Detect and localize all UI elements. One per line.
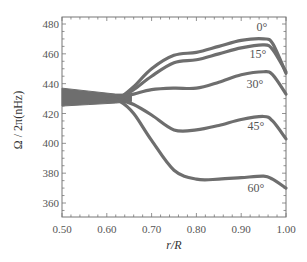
curve-label: 0° [257,20,268,34]
curve-labels: 0°15°30°45°60° [247,20,268,195]
curves [62,39,286,188]
y-tick-label: 360 [43,197,60,209]
x-tick-label: 0.90 [232,223,252,235]
curve-60deg [107,99,286,188]
y-tick-label: 440 [43,78,60,90]
y-axis-title: Ω / 2π(nHz) [11,91,25,149]
y-tick-label: 400 [43,137,60,149]
y-tick-label: 420 [43,108,60,120]
x-tick-label: 0.60 [97,223,117,235]
curve-label: 30° [247,77,264,91]
x-tick-label: 0.50 [52,223,72,235]
y-tick-label: 460 [43,48,60,60]
y-tick-label: 380 [43,167,60,179]
x-tick-label: 0.80 [187,223,207,235]
y-tick-label: 480 [43,18,60,30]
curve-label: 60° [248,181,265,195]
rotation-rate-chart: 0.500.600.700.800.901.003603804004204404… [0,0,307,262]
x-axis-title: r/R [166,238,182,252]
x-tick-label: 1.00 [276,223,296,235]
curve-label: 15° [250,47,267,61]
x-tick-label: 0.70 [142,223,162,235]
curve-label: 45° [248,119,265,133]
